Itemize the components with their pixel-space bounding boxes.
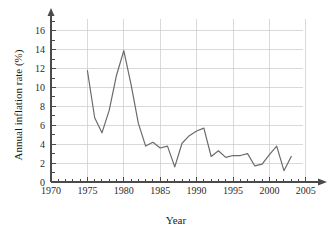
x-tick-label: 1990 [187,185,207,196]
x-tick-label: 2000 [259,185,279,196]
y-tick-label: 14 [35,44,45,55]
y-tick-label: 4 [40,139,45,150]
y-tick-label: 2 [40,158,45,169]
y-axis-arrow [48,8,55,16]
axis-lines [48,8,328,186]
x-axis-arrow [318,179,327,186]
y-axis-title: Annual inflation rate (%) [12,49,25,160]
x-tick-label: 1980 [114,185,134,196]
y-tick-label: 6 [40,120,45,131]
y-tick-label: 16 [35,25,45,36]
x-tick-label: 1985 [150,185,170,196]
x-tick-label: 2005 [296,185,316,196]
y-tick-label: 0 [40,177,45,188]
y-tick-label: 8 [40,101,45,112]
y-tick-label: 10 [35,82,45,93]
tick-labels: 1970197519801985199019952000200502468101… [35,25,316,196]
chart-figure: 1970197519801985199019952000200502468101… [0,0,331,233]
x-tick-label: 1975 [77,185,97,196]
chart-canvas: 1970197519801985199019952000200502468101… [0,0,331,233]
x-tick-label: 1995 [223,185,243,196]
x-axis-title: Year [166,214,187,226]
y-tick-label: 12 [35,63,45,74]
